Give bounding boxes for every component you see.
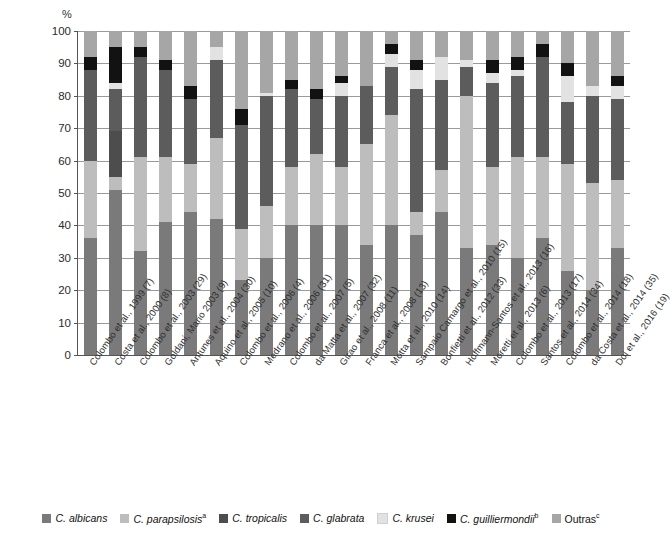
legend-item[interactable]: C. tropicalis bbox=[219, 512, 287, 524]
bar-segment[interactable] bbox=[460, 96, 473, 248]
bar-segment[interactable] bbox=[611, 99, 624, 180]
bar-segment[interactable] bbox=[536, 238, 549, 355]
bar-segment[interactable] bbox=[285, 31, 298, 80]
bar-stack[interactable] bbox=[210, 31, 223, 355]
bar-segment[interactable] bbox=[385, 67, 398, 116]
bar-stack[interactable] bbox=[536, 31, 549, 355]
legend-item[interactable]: Outrasc bbox=[552, 512, 600, 525]
bar-stack[interactable] bbox=[611, 31, 624, 355]
bar-segment[interactable] bbox=[134, 31, 147, 47]
bar-segment[interactable] bbox=[109, 89, 122, 131]
bar-segment[interactable] bbox=[385, 115, 398, 225]
legend-item[interactable]: C. guilliermondiib bbox=[447, 512, 539, 525]
bar-segment[interactable] bbox=[335, 76, 348, 82]
bar-segment[interactable] bbox=[235, 31, 248, 109]
bar-segment[interactable] bbox=[310, 89, 323, 99]
bar-stack[interactable] bbox=[260, 31, 273, 355]
bar-stack[interactable] bbox=[335, 31, 348, 355]
bar-segment[interactable] bbox=[410, 212, 423, 235]
bar-segment[interactable] bbox=[611, 76, 624, 86]
bar-segment[interactable] bbox=[586, 31, 599, 86]
bar-segment[interactable] bbox=[109, 31, 122, 47]
bar-segment[interactable] bbox=[586, 86, 599, 96]
bar-segment[interactable] bbox=[235, 280, 248, 355]
bar-segment[interactable] bbox=[159, 157, 172, 222]
bar-segment[interactable] bbox=[285, 167, 298, 225]
bar-segment[interactable] bbox=[109, 83, 122, 89]
bar-segment[interactable] bbox=[611, 248, 624, 355]
bar-segment[interactable] bbox=[511, 76, 524, 157]
bar-segment[interactable] bbox=[410, 31, 423, 60]
bar-segment[interactable] bbox=[84, 238, 97, 355]
bar-segment[interactable] bbox=[511, 157, 524, 257]
bar-segment[interactable] bbox=[159, 31, 172, 60]
bar-segment[interactable] bbox=[335, 167, 348, 225]
bar-segment[interactable] bbox=[285, 89, 298, 167]
bar-segment[interactable] bbox=[310, 99, 323, 154]
bar-segment[interactable] bbox=[536, 44, 549, 57]
bar-segment[interactable] bbox=[385, 44, 398, 54]
bar-segment[interactable] bbox=[360, 245, 373, 355]
bar-segment[interactable] bbox=[536, 157, 549, 238]
bar-segment[interactable] bbox=[460, 67, 473, 96]
bar-segment[interactable] bbox=[486, 245, 499, 355]
legend-item[interactable]: C. glabrata bbox=[300, 512, 364, 524]
bar-segment[interactable] bbox=[184, 86, 197, 99]
bar-segment[interactable] bbox=[260, 31, 273, 93]
bar-segment[interactable] bbox=[335, 225, 348, 355]
bar-segment[interactable] bbox=[310, 31, 323, 89]
bar-segment[interactable] bbox=[360, 86, 373, 144]
bar-segment[interactable] bbox=[184, 31, 197, 86]
bar-segment[interactable] bbox=[435, 80, 448, 171]
bar-segment[interactable] bbox=[486, 73, 499, 83]
bar-segment[interactable] bbox=[460, 31, 473, 60]
bar-segment[interactable] bbox=[460, 248, 473, 355]
bar-segment[interactable] bbox=[84, 57, 97, 70]
bar-stack[interactable] bbox=[561, 31, 574, 355]
bar-segment[interactable] bbox=[486, 31, 499, 60]
bar-segment[interactable] bbox=[184, 99, 197, 164]
bar-segment[interactable] bbox=[410, 89, 423, 212]
bar-segment[interactable] bbox=[486, 167, 499, 245]
bar-segment[interactable] bbox=[561, 271, 574, 355]
bar-segment[interactable] bbox=[611, 180, 624, 248]
bar-segment[interactable] bbox=[134, 47, 147, 57]
bar-segment[interactable] bbox=[410, 235, 423, 355]
bar-segment[interactable] bbox=[586, 290, 599, 355]
bar-segment[interactable] bbox=[561, 164, 574, 271]
bar-segment[interactable] bbox=[260, 93, 273, 96]
bar-segment[interactable] bbox=[511, 57, 524, 70]
bar-segment[interactable] bbox=[109, 47, 122, 83]
bar-segment[interactable] bbox=[109, 131, 122, 176]
bar-segment[interactable] bbox=[511, 31, 524, 57]
bar-segment[interactable] bbox=[159, 222, 172, 355]
bar-segment[interactable] bbox=[586, 96, 599, 183]
bar-segment[interactable] bbox=[435, 170, 448, 212]
bar-segment[interactable] bbox=[410, 60, 423, 70]
bar-segment[interactable] bbox=[84, 31, 97, 57]
bar-segment[interactable] bbox=[335, 31, 348, 76]
bar-segment[interactable] bbox=[460, 60, 473, 66]
bar-segment[interactable] bbox=[335, 83, 348, 96]
bar-stack[interactable] bbox=[310, 31, 323, 355]
bar-segment[interactable] bbox=[235, 109, 248, 125]
bar-segment[interactable] bbox=[335, 96, 348, 167]
bar-stack[interactable] bbox=[285, 31, 298, 355]
bar-segment[interactable] bbox=[84, 161, 97, 239]
bar-segment[interactable] bbox=[536, 57, 549, 157]
bar-segment[interactable] bbox=[435, 57, 448, 80]
bar-stack[interactable] bbox=[486, 31, 499, 355]
bar-segment[interactable] bbox=[184, 164, 197, 213]
bar-segment[interactable] bbox=[260, 258, 273, 355]
bar-segment[interactable] bbox=[561, 63, 574, 76]
bar-segment[interactable] bbox=[210, 138, 223, 219]
bar-segment[interactable] bbox=[260, 96, 273, 206]
bar-segment[interactable] bbox=[385, 54, 398, 67]
bar-segment[interactable] bbox=[611, 31, 624, 76]
bar-stack[interactable] bbox=[109, 31, 122, 355]
bar-segment[interactable] bbox=[435, 31, 448, 57]
bar-segment[interactable] bbox=[134, 157, 147, 251]
bar-segment[interactable] bbox=[285, 225, 298, 355]
bar-stack[interactable] bbox=[586, 31, 599, 355]
bar-segment[interactable] bbox=[109, 177, 122, 190]
